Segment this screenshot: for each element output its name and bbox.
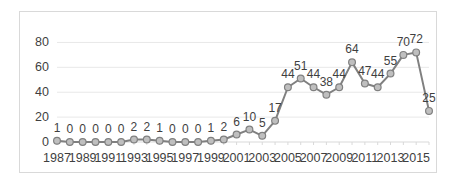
data-point-marker: [131, 136, 138, 143]
data-point-label: 44: [328, 68, 350, 80]
data-point-label: 44: [367, 68, 389, 80]
data-point-marker: [195, 139, 202, 146]
data-point-label: 55: [380, 55, 402, 67]
y-axis-tick-label: 60: [23, 61, 49, 74]
data-point-label: 64: [341, 43, 363, 55]
data-point-marker: [374, 84, 381, 91]
data-point-marker: [118, 139, 125, 146]
data-point-marker: [413, 49, 420, 56]
data-point-marker: [92, 139, 99, 146]
data-point-label: 17: [264, 102, 286, 114]
data-point-marker: [323, 91, 330, 98]
chart-container: 0204060801987198919911993199519971999200…: [19, 11, 437, 173]
data-point-marker: [66, 139, 73, 146]
data-point-marker: [208, 137, 215, 144]
data-point-marker: [426, 107, 433, 114]
data-point-marker: [285, 84, 292, 91]
data-point-marker: [156, 137, 163, 144]
data-point-marker: [79, 139, 86, 146]
data-point-marker: [220, 136, 227, 143]
data-point-label: 5: [251, 117, 273, 129]
data-point-marker: [361, 80, 368, 87]
data-point-label: 25: [418, 92, 440, 104]
data-point-label: 72: [405, 33, 427, 45]
y-axis-tick-label: 80: [23, 36, 49, 49]
data-point-marker: [105, 139, 112, 146]
data-point-marker: [54, 137, 61, 144]
x-axis-tick-label: 2015: [400, 152, 432, 165]
data-point-marker: [143, 136, 150, 143]
data-point-marker: [259, 132, 266, 139]
line-chart-plot: [20, 12, 436, 172]
data-point-marker: [182, 139, 189, 146]
data-point-marker: [169, 139, 176, 146]
y-axis-tick-label: 0: [23, 136, 49, 149]
y-axis-tick-label: 40: [23, 86, 49, 99]
